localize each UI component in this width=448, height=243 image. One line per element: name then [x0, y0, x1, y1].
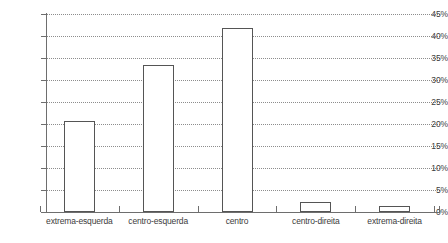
bar[interactable] [64, 121, 95, 212]
bar[interactable] [300, 202, 331, 212]
bar-chart: 0%5%10%15%20%25%30%35%40%45% extrema-esq… [0, 0, 448, 243]
x-axis-line [46, 212, 440, 213]
bars-group [46, 14, 440, 212]
x-tick-mark [198, 206, 199, 212]
x-tick-mark [439, 206, 440, 212]
x-tick-label: centro-esquerda [119, 216, 198, 226]
x-tick-label: extrema-esquerda [40, 216, 119, 226]
bar[interactable] [222, 28, 253, 212]
x-tick-mark [355, 206, 356, 212]
x-tick-mark [40, 206, 41, 212]
x-tick-mark [119, 206, 120, 212]
x-tick-label: centro [198, 216, 277, 226]
x-tick-label: extrema-direita [355, 216, 434, 226]
x-tick-mark [276, 206, 277, 212]
x-tick-mark [434, 206, 435, 212]
x-tick-label: centro-direita [276, 216, 355, 226]
bar[interactable] [143, 65, 174, 212]
